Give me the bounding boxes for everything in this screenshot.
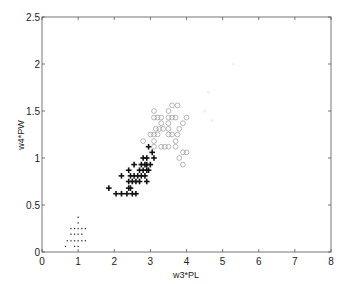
y-axis-label: w4*PW [16, 120, 26, 151]
x-axis-label: w3*PL [172, 270, 199, 280]
scatter-chart: 012345678 00.511.522.5 w3*PL w4*PW [0, 0, 349, 284]
y-tick-label: 2.5 [26, 12, 40, 23]
y-tick-label: 1.5 [26, 106, 40, 117]
x-tick-label: 2 [111, 256, 117, 267]
x-tick-label: 0 [39, 256, 45, 267]
y-tick-label: 1 [34, 153, 40, 164]
x-tick-label: 6 [256, 256, 262, 267]
x-tick-label: 8 [328, 256, 334, 267]
x-tick-label: 7 [292, 256, 298, 267]
y-tick-label: 0.5 [26, 200, 40, 211]
plot-area [42, 17, 331, 252]
y-tick-label: 0 [34, 247, 40, 258]
x-tick-label: 1 [75, 256, 81, 267]
x-tick-label: 4 [184, 256, 190, 267]
y-tick-label: 2 [34, 59, 40, 70]
x-tick-label: 5 [220, 256, 226, 267]
x-tick-label: 3 [148, 256, 154, 267]
